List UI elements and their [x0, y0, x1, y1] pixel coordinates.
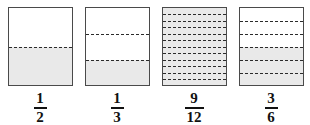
partition-line: [163, 21, 226, 22]
partition-line: [240, 73, 303, 74]
fraction-bar: [162, 7, 227, 86]
partition-line: [163, 79, 226, 80]
denominator: 3: [111, 109, 123, 125]
partition-line: [163, 14, 226, 15]
fraction-bar: [85, 7, 150, 86]
denominator: 2: [34, 109, 46, 125]
numerator: 1: [34, 91, 46, 107]
numerator: 1: [111, 91, 123, 107]
fraction-model: 9 12: [155, 0, 233, 125]
partition-line: [163, 40, 226, 41]
fraction-label: 9 12: [185, 91, 204, 125]
fraction-label: 3 6: [265, 91, 278, 125]
fraction-bar: [239, 7, 304, 86]
partition-line: [163, 27, 226, 28]
partition-line: [163, 53, 226, 54]
fraction-bar: [8, 7, 73, 86]
shaded-region: [9, 47, 72, 86]
partition-line: [240, 60, 303, 61]
fraction-bar-figure: 1 2 1 3 9 12: [0, 0, 310, 125]
numerator: 3: [265, 91, 277, 107]
fraction-model: 1 2: [1, 0, 79, 125]
denominator: 12: [185, 109, 204, 125]
partition-line: [86, 34, 149, 35]
numerator: 9: [188, 91, 200, 107]
shaded-region: [240, 47, 303, 86]
fraction-label: 1 2: [34, 91, 47, 125]
partition-line: [240, 47, 303, 48]
partition-line: [86, 60, 149, 61]
fraction-label: 1 3: [111, 91, 124, 125]
partition-line: [163, 47, 226, 48]
partition-line: [163, 66, 226, 67]
fraction-model: 1 3: [78, 0, 156, 125]
partition-line: [240, 34, 303, 35]
denominator: 6: [265, 109, 277, 125]
shaded-region: [86, 60, 149, 86]
partition-line: [163, 73, 226, 74]
partition-line: [163, 34, 226, 35]
partition-line: [240, 21, 303, 22]
fraction-model: 3 6: [232, 0, 310, 125]
partition-line: [9, 47, 72, 48]
partition-line: [163, 60, 226, 61]
